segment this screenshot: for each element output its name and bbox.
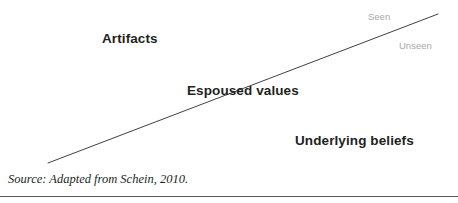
layer-label-artifacts: Artifacts bbox=[102, 32, 158, 46]
bottom-rule bbox=[0, 196, 458, 197]
source-note: Source: Adapted from Schein, 2010. bbox=[8, 173, 188, 187]
side-label-unseen: Unseen bbox=[399, 41, 432, 51]
diagram-area: Artifacts Espoused values Underlying bel… bbox=[0, 0, 458, 170]
layer-label-underlying-beliefs: Underlying beliefs bbox=[295, 134, 414, 148]
layer-label-espoused-values: Espoused values bbox=[187, 84, 299, 98]
side-label-seen: Seen bbox=[368, 12, 390, 22]
culture-model-figure: Artifacts Espoused values Underlying bel… bbox=[0, 0, 458, 203]
